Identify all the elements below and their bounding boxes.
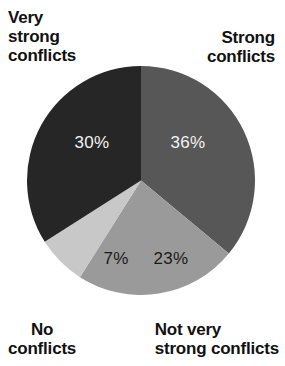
- pie-label-very-strong-conflicts: Very strong conflicts: [8, 8, 76, 65]
- pie-graphic: [27, 66, 255, 295]
- pie-value-strong-conflicts: 36%: [171, 133, 206, 153]
- pie-value-no-conflicts: 7%: [103, 249, 128, 269]
- pie-chart-figure: Very strong conflicts Strong conflicts N…: [0, 0, 285, 366]
- pie-value-not-very-strong-conflicts: 23%: [154, 249, 189, 269]
- pie-svg: [27, 66, 255, 295]
- pie-label-not-very-strong-conflicts: Not very strong conflicts: [155, 320, 279, 358]
- pie-value-very-strong-conflicts: 30%: [75, 133, 110, 153]
- pie-label-strong-conflicts: Strong conflicts: [207, 28, 275, 66]
- pie-label-no-conflicts: No conflicts: [8, 320, 76, 358]
